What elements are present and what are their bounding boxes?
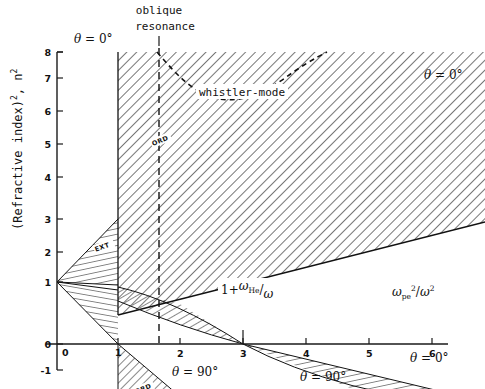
x-axis-title-omega: ω <box>392 285 402 299</box>
y-tick-label: 2 <box>44 247 51 258</box>
annotation-oblique-resonance: oblique resonance <box>135 4 195 33</box>
y-tick-label: 1 <box>44 277 51 288</box>
oblique-resonance-line1: oblique <box>136 4 182 17</box>
y-axis-title: (Refractive index)2, n2 <box>10 68 25 230</box>
omega-he-omega: ω <box>239 279 249 293</box>
plot-canvas: 8 7 6 5 4 3 2 1 0 -1 0 1 2 3 4 5 6 (Refr… <box>0 0 485 389</box>
whistler-mode-label: whistler-mode <box>199 86 285 99</box>
annotation-theta-ninety-lower-right: θ = 90° <box>300 370 346 384</box>
y-tick-label: 3 <box>44 214 51 225</box>
x-axis-ticks <box>118 330 432 344</box>
omega-he-omega2: ω <box>264 287 274 301</box>
svg-text:(Refractive index)2, n2: (Refractive index)2, n2 <box>10 68 25 230</box>
annotation-whistler-mode: whistler-mode <box>196 84 288 99</box>
omega-he-sub: He <box>249 286 261 295</box>
annotation-one-plus-omega-he: 1+ωHe/ω <box>218 278 300 301</box>
x-tick-label: 0 <box>62 347 69 358</box>
x-tick-label: 1 <box>115 347 122 358</box>
y-axis-title-main: (Refractive index) <box>11 100 25 230</box>
x-axis-tick-labels: 0 1 2 3 4 5 6 <box>62 347 436 359</box>
x-axis-title-denom-omega: ω <box>420 285 430 299</box>
y-tick-label: 7 <box>44 73 51 84</box>
y-tick-label: 6 <box>44 106 51 117</box>
svg-text:ωpe2/ω2: ωpe2/ω2 <box>392 284 435 301</box>
y-axis-title-n-sup: 2 <box>10 68 19 73</box>
svg-text:θ = 0°: θ = 0° <box>424 68 463 82</box>
annotation-theta-ninety-lower-left: θ = 90° <box>172 365 218 379</box>
annotation-theta-zero-right-upper: θ = 0° <box>424 68 463 82</box>
x-tick-label: 4 <box>303 348 310 359</box>
svg-text:θ = 90°: θ = 90° <box>300 370 346 384</box>
x-axis-title-sub: pe <box>402 292 412 301</box>
dispersion-figure: 8 7 6 5 4 3 2 1 0 -1 0 1 2 3 4 5 6 (Refr… <box>0 0 485 389</box>
hatched-region-right-wedge <box>243 344 485 389</box>
y-tick-label: -1 <box>40 365 51 376</box>
y-tick-label: 5 <box>44 139 51 150</box>
y-axis-title-n: n <box>11 73 25 80</box>
x-axis-title: ωpe2/ω2 <box>392 284 435 301</box>
y-tick-label: 8 <box>44 47 51 58</box>
x-tick-label: 5 <box>366 348 373 359</box>
y-tick-label: 0 <box>44 339 51 350</box>
y-axis-ticks <box>57 52 63 370</box>
y-axis-title-comma: , <box>11 81 25 95</box>
y-axis-tick-labels: 8 7 6 5 4 3 2 1 0 -1 <box>40 47 51 376</box>
y-tick-label: 4 <box>44 172 51 183</box>
annotation-theta-zero-right-lower: θ = 0° <box>410 351 449 365</box>
oblique-resonance-line2: resonance <box>135 20 195 33</box>
svg-text:θ = 0°: θ = 0° <box>74 32 113 46</box>
x-axis-title-denom-sup: 2 <box>430 284 435 293</box>
annotation-theta-zero-upper-left: θ = 0° <box>74 32 113 46</box>
svg-text:θ = 0°: θ = 0° <box>410 351 449 365</box>
svg-text:θ = 90°: θ = 90° <box>172 365 218 379</box>
omega-he-lead: 1+ <box>221 283 239 297</box>
x-tick-label: 3 <box>240 348 247 359</box>
x-tick-label: 2 <box>177 348 184 359</box>
hatched-region-upper-band <box>118 52 485 315</box>
